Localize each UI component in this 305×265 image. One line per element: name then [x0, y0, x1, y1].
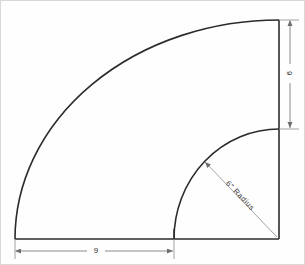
horizontal-dimension-label: 9 — [94, 246, 99, 255]
vertical-dimension-label: 6 — [285, 70, 294, 75]
drawing-canvas: 6 9 6" Radius — [1, 1, 305, 265]
radius-annotation-label: 6" Radius — [224, 179, 257, 212]
outer-arc — [15, 20, 279, 239]
technical-drawing-figure: 6 9 6" Radius — [0, 0, 305, 265]
